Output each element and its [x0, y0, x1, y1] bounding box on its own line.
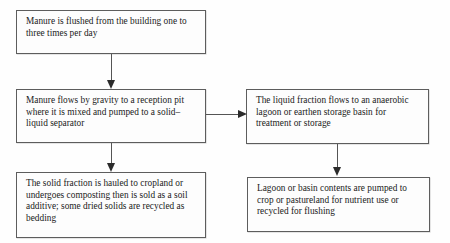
connector-line — [111, 143, 112, 165]
connector-line — [337, 144, 338, 169]
connector-line — [111, 54, 112, 82]
process-box-solid-fraction: The solid fraction is hauled to cropland… — [16, 172, 206, 238]
connector-line — [206, 114, 240, 115]
arrow-down-icon — [333, 167, 341, 176]
process-box-liquid-fraction: The liquid fraction flows to an anaerobi… — [246, 89, 429, 144]
flowchart-diagram: Manure is flushed from the building one … — [0, 0, 450, 243]
process-box-reception-pit: Manure flows by gravity to a reception p… — [16, 89, 206, 143]
arrow-down-icon — [107, 163, 115, 172]
arrow-right-icon — [238, 110, 247, 118]
process-box-manure-flushed: Manure is flushed from the building one … — [16, 10, 206, 54]
arrow-down-icon — [107, 80, 115, 89]
process-box-lagoon-contents: Lagoon or basin contents are pumped to c… — [247, 177, 430, 232]
